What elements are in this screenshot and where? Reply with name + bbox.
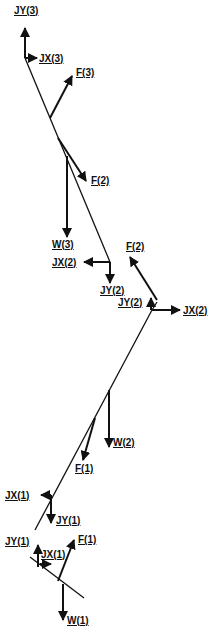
label-w1: W(1) — [67, 615, 89, 626]
label-jx2a: JX(2) — [52, 257, 76, 268]
body-segments — [25, 58, 157, 598]
label-jy3: JY(3) — [14, 5, 38, 16]
label-w2: W(2) — [113, 437, 135, 448]
arrow-f1b-icon — [58, 540, 74, 581]
label-jy1b: JY(1) — [5, 536, 29, 547]
label-jy1a: JY(1) — [56, 515, 80, 526]
label-f2a: F(2) — [91, 175, 109, 186]
label-jx3: JX(3) — [39, 53, 63, 64]
vector-labels: JY(3)JX(3)F(3)F(2)W(3)JX(2)JY(2)F(2)JY(2… — [5, 5, 207, 626]
arrow-f2b-icon — [130, 257, 157, 300]
label-f1a: F(1) — [75, 463, 93, 474]
arrow-f2a-icon — [58, 138, 86, 181]
arrow-f3-icon — [50, 76, 72, 118]
free-body-diagram: JY(3)JX(3)F(3)F(2)W(3)JX(2)JY(2)F(2)JY(2… — [0, 0, 220, 639]
label-f3: F(3) — [76, 67, 94, 78]
label-jy2b: JY(2) — [118, 297, 142, 308]
segment-2-upper-line — [152, 302, 157, 310]
label-jx2b: JX(2) — [183, 305, 207, 316]
arrow-f1a-icon — [83, 418, 95, 460]
label-jx1b: JX(1) — [41, 549, 65, 560]
label-f2b: F(2) — [126, 241, 144, 252]
label-f1b: F(1) — [78, 534, 96, 545]
label-w3: W(3) — [52, 239, 74, 250]
label-jx1a: JX(1) — [5, 490, 29, 501]
force-vectors — [25, 28, 180, 620]
label-jy2a: JY(2) — [100, 285, 124, 296]
